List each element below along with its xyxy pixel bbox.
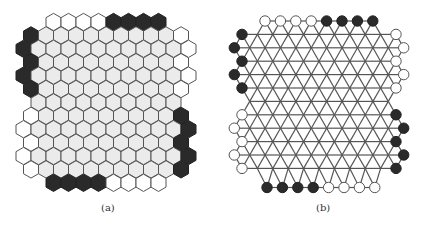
lattice-edge	[350, 101, 358, 114]
lattice-edge	[288, 88, 296, 101]
panel-a-hex-board	[16, 13, 196, 191]
lattice-edge	[250, 34, 258, 47]
lattice-edge	[273, 142, 281, 155]
lattice-edge	[365, 34, 373, 47]
lattice-edge	[373, 101, 381, 114]
lattice-edge	[281, 48, 289, 61]
lattice-edge	[319, 88, 327, 101]
lattice-edge	[342, 48, 350, 61]
lattice-edge	[350, 48, 358, 61]
caption-b: (b)	[316, 202, 330, 213]
node-white	[275, 16, 285, 26]
lattice-edge	[365, 75, 373, 88]
lattice-edge	[334, 61, 342, 74]
lattice-edge	[257, 142, 265, 155]
node-dark	[229, 69, 239, 79]
figure-canvas	[0, 0, 430, 225]
node-dark	[391, 163, 401, 173]
lattice-edge	[296, 155, 304, 168]
node-dark	[391, 136, 401, 146]
lattice-edge	[273, 101, 281, 114]
lattice-edge	[342, 34, 350, 47]
lattice-edge	[257, 75, 265, 88]
lattice-edge	[373, 48, 381, 61]
lattice-edge	[342, 128, 350, 141]
lattice-edge	[350, 34, 358, 47]
lattice-edge	[365, 88, 373, 101]
lattice-edge	[342, 88, 350, 101]
hex-cell-white	[151, 174, 166, 191]
lattice-edge	[334, 142, 342, 155]
lattice-edge	[350, 115, 358, 128]
lattice-edge	[296, 34, 304, 47]
hex-cell-white	[106, 174, 121, 191]
lattice-edge	[273, 61, 281, 74]
lattice-edge	[327, 142, 335, 155]
lattice-edge	[319, 142, 327, 155]
node-white	[391, 83, 401, 93]
lattice-edge	[304, 75, 312, 88]
lattice-edge	[296, 88, 304, 101]
lattice-edge	[265, 88, 273, 101]
lattice-edge	[288, 61, 296, 74]
node-dark	[237, 83, 247, 93]
lattice-edge	[257, 101, 265, 114]
lattice-edge	[365, 61, 373, 74]
node-dark	[237, 56, 247, 66]
hex-cell-dark	[61, 174, 76, 191]
lattice-edge	[319, 34, 327, 47]
lattice-edge	[257, 155, 265, 168]
lattice-edge	[358, 142, 366, 155]
lattice-edge	[342, 75, 350, 88]
lattice-edge	[250, 61, 258, 74]
node-white	[229, 150, 239, 160]
node-white	[323, 182, 333, 192]
lattice-edge	[358, 115, 366, 128]
lattice-edge	[334, 75, 342, 88]
lattice-edge	[334, 34, 342, 47]
lattice-edge	[296, 75, 304, 88]
lattice-edge	[327, 75, 335, 88]
lattice-edge	[342, 115, 350, 128]
lattice-edge	[288, 142, 296, 155]
lattice-edge	[319, 128, 327, 141]
lattice-edge	[334, 88, 342, 101]
lattice-edge	[273, 88, 281, 101]
node-dark	[391, 110, 401, 120]
lattice-edge	[373, 75, 381, 88]
lattice-edges	[234, 21, 403, 188]
lattice-edge	[373, 128, 381, 141]
lattice-edge	[381, 61, 389, 74]
lattice-edge	[327, 48, 335, 61]
lattice-edge	[373, 155, 381, 168]
lattice-edge	[304, 34, 312, 47]
node-white	[399, 43, 409, 53]
lattice-edge	[373, 34, 381, 47]
lattice-edge	[250, 75, 258, 88]
node-white	[391, 56, 401, 66]
lattice-edge	[327, 88, 335, 101]
lattice-edge	[327, 155, 335, 168]
lattice-edge	[381, 101, 389, 114]
hex-cell-dark	[174, 161, 189, 178]
lattice-edge	[358, 48, 366, 61]
node-dark	[262, 182, 272, 192]
node-dark	[308, 182, 318, 192]
lattice-edge	[381, 48, 389, 61]
lattice-edge	[257, 34, 265, 47]
lattice-edge	[288, 34, 296, 47]
lattice-edge	[281, 142, 289, 155]
lattice-edge	[257, 88, 265, 101]
lattice-edge	[304, 88, 312, 101]
lattice-edge	[311, 142, 319, 155]
node-dark	[321, 16, 331, 26]
lattice-edge	[296, 115, 304, 128]
lattice-edge	[288, 101, 296, 114]
lattice-edge	[288, 48, 296, 61]
lattice-edge	[381, 142, 389, 155]
lattice-edge	[281, 34, 289, 47]
lattice-edge	[334, 155, 342, 168]
lattice-edge	[296, 61, 304, 74]
lattice-edge	[381, 115, 389, 128]
lattice-edge	[373, 142, 381, 155]
